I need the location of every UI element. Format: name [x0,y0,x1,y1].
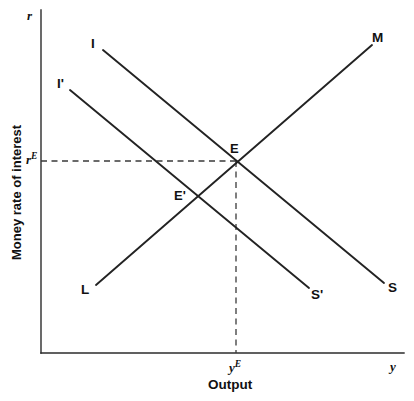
curve-label-saving-high: S [388,281,397,295]
curve-label-investment-low: I' [57,77,64,91]
point-label-equilibrium: E [230,142,239,155]
is-curve [103,50,384,283]
curve-label-liquidity: L [81,283,89,297]
x-axis-title: Output [208,378,252,392]
y-axis-title: Money rate of interest [10,125,23,260]
curve-label-money: M [372,31,383,45]
equilibrium-rate-tick-label: rE [26,152,37,166]
curve-label-investment-high: I [91,37,95,51]
is-prime-curve [70,90,309,288]
lm-curve [96,45,372,285]
diagram-canvas [0,0,414,401]
point-label-equilibrium-prime: E' [174,189,186,202]
y-axis-variable-label: r [27,9,32,22]
x-axis-variable-label: y [390,360,396,373]
equilibrium-output-tick-label: yE [229,360,241,374]
economics-diagram-figure: r y Money rate of interest Output rE yE … [0,0,414,401]
equilibrium-output-superscript: E [235,359,241,369]
curve-label-saving-low: S' [311,288,323,302]
equilibrium-rate-superscript: E [31,151,37,161]
